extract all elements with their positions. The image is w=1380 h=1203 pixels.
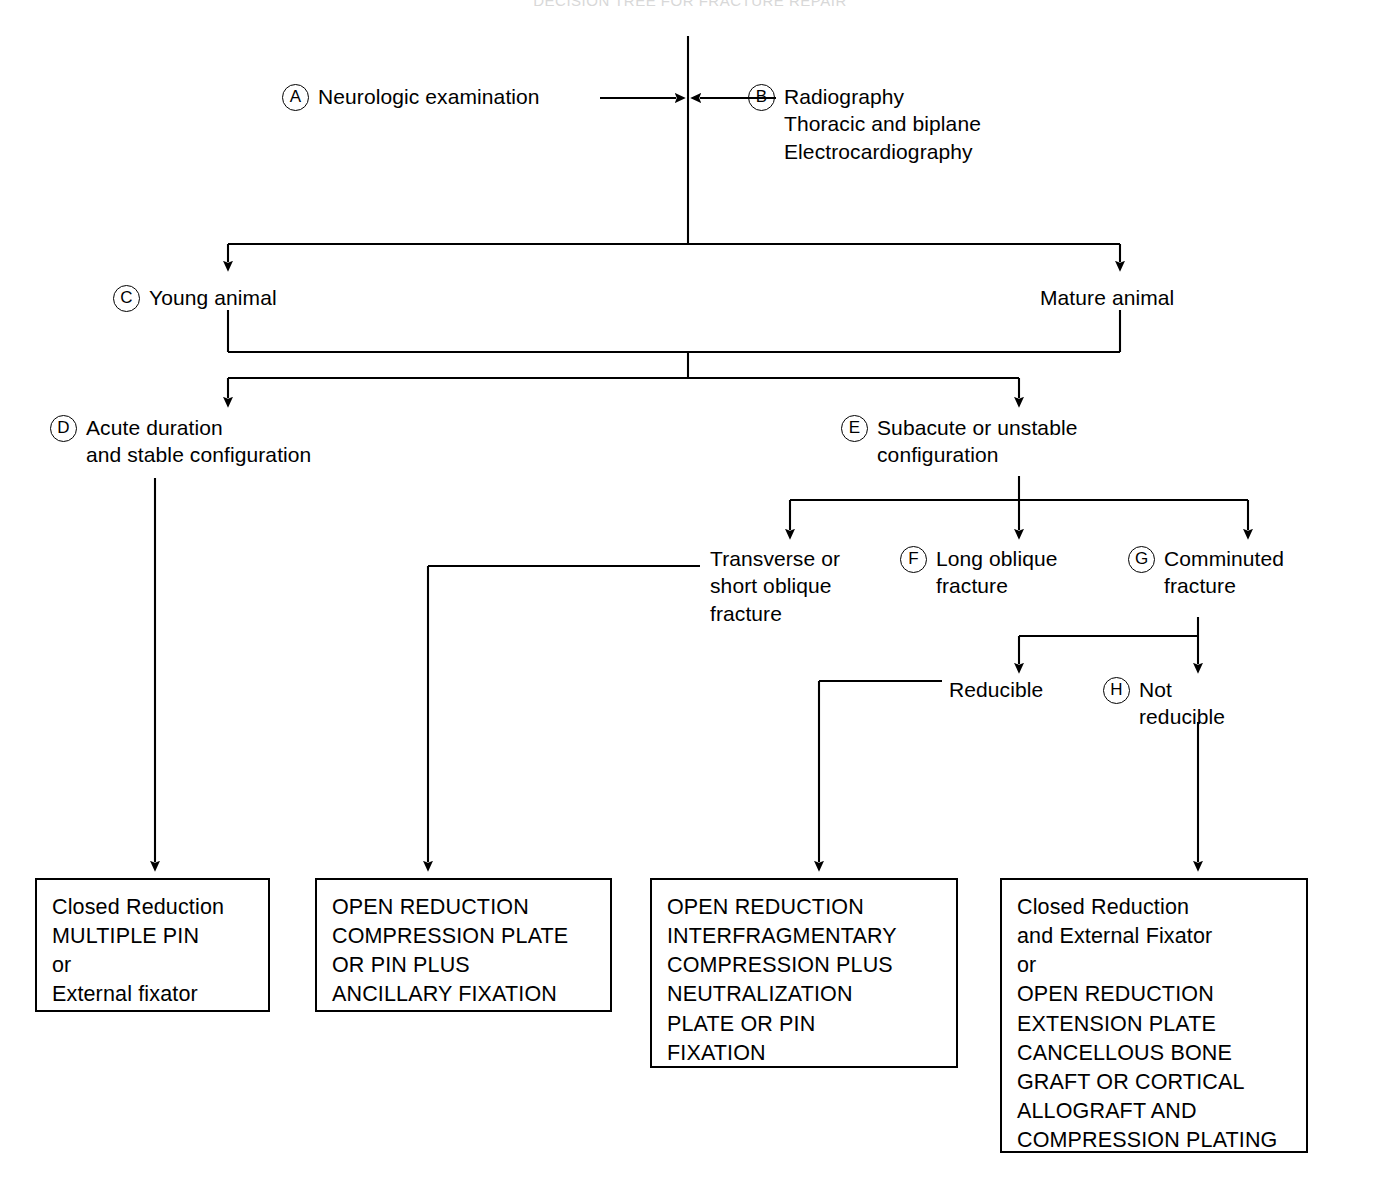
node-g-label: Comminuted fracture	[1164, 545, 1284, 600]
outcome-box1-text: Closed Reduction MULTIPLE PIN or Externa…	[52, 893, 268, 1010]
node-e-subacute-unstable[interactable]: E Subacute or unstable configuration	[841, 414, 1077, 469]
node-mature-label: Mature animal	[1040, 284, 1174, 311]
node-marker-g: G	[1128, 546, 1155, 573]
node-h-label: Not reducible	[1139, 676, 1225, 731]
node-f-long-oblique[interactable]: F Long oblique fracture	[900, 545, 1057, 600]
node-e-label: Subacute or unstable configuration	[877, 414, 1077, 469]
node-reducible-label: Reducible	[949, 676, 1043, 703]
node-d-acute-duration[interactable]: D Acute duration and stable configuratio…	[50, 414, 311, 469]
node-marker-f: F	[900, 546, 927, 573]
node-marker-e: E	[841, 415, 868, 442]
outcome-box-open-reduction-interfragmentary[interactable]: OPEN REDUCTION INTERFRAGMENTARY COMPRESS…	[650, 878, 958, 1068]
node-marker-d: D	[50, 415, 77, 442]
node-a-label: Neurologic examination	[318, 83, 540, 110]
node-c-young-animal[interactable]: C Young animal	[113, 284, 277, 312]
node-mature-animal[interactable]: Mature animal	[1040, 284, 1174, 311]
outcome-box-closed-reduction-multiple-pin[interactable]: Closed Reduction MULTIPLE PIN or Externa…	[35, 878, 270, 1012]
outcome-box2-text: OPEN REDUCTION COMPRESSION PLATE OR PIN …	[332, 893, 610, 1010]
node-transverse-label: Transverse or short oblique fracture	[710, 545, 840, 627]
node-a-neurologic-examination[interactable]: A Neurologic examination	[282, 83, 540, 111]
node-f-label: Long oblique fracture	[936, 545, 1057, 600]
decision-tree-flowchart: DECISION TREE FOR FRACTURE REPAIR	[0, 0, 1380, 1203]
node-reducible[interactable]: Reducible	[949, 676, 1043, 703]
node-marker-h: H	[1103, 677, 1130, 704]
node-h-not-reducible[interactable]: H Not reducible	[1103, 676, 1225, 731]
outcome-box4-text: Closed Reduction and External Fixator or…	[1017, 893, 1306, 1155]
node-marker-a: A	[282, 84, 309, 111]
node-d-label: Acute duration and stable configuration	[86, 414, 311, 469]
node-marker-b: B	[748, 84, 775, 111]
node-c-label: Young animal	[149, 284, 277, 311]
outcome-box-closed-reduction-external-fixator[interactable]: Closed Reduction and External Fixator or…	[1000, 878, 1308, 1153]
node-marker-c: C	[113, 285, 140, 312]
node-transverse-short-oblique[interactable]: Transverse or short oblique fracture	[710, 545, 840, 627]
node-b-label: Radiography Thoracic and biplane Electro…	[784, 83, 981, 165]
outcome-box-open-reduction-compression-plate[interactable]: OPEN REDUCTION COMPRESSION PLATE OR PIN …	[315, 878, 612, 1012]
outcome-box3-text: OPEN REDUCTION INTERFRAGMENTARY COMPRESS…	[667, 893, 956, 1068]
node-b-radiography[interactable]: B Radiography Thoracic and biplane Elect…	[748, 83, 981, 165]
node-g-comminuted[interactable]: G Comminuted fracture	[1128, 545, 1284, 600]
